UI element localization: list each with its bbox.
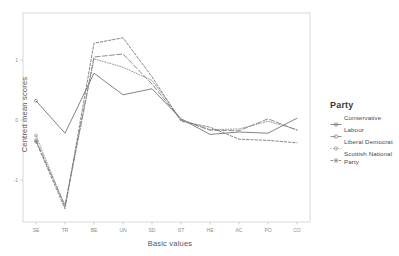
x-tick-label-be: BE xyxy=(84,227,104,233)
legend-item-liberal-democrat[interactable]: Liberal Democrat xyxy=(330,138,399,148)
x-tick-label-co: CO xyxy=(287,227,307,233)
legend-item-labour[interactable]: Labour xyxy=(330,126,399,136)
x-axis-title: Basic values xyxy=(0,239,340,248)
x-tick-label-st: ST xyxy=(171,227,191,233)
y-axis-title: Centred mean scores xyxy=(20,45,29,185)
legend-item-label: Labour xyxy=(344,126,364,134)
line-marker-icon xyxy=(330,115,342,124)
x-tick-label-tr: TR xyxy=(55,227,75,233)
x-tick-label-se: SE xyxy=(26,227,46,233)
legend-title: Party xyxy=(330,100,399,110)
plot-panel-border xyxy=(23,13,310,222)
legend-item-label: Liberal Democrat xyxy=(344,138,393,146)
legend-item-conservative[interactable]: Conservative xyxy=(330,114,399,124)
legend-item-label: Scottish National Party xyxy=(344,150,399,165)
legend: Party ConservativeLabourLiberal Democrat… xyxy=(330,100,399,168)
legend-item-label: Conservative xyxy=(344,114,381,122)
chart-container: Basic values Centred mean scores SETRBEU… xyxy=(0,0,399,256)
x-tick-label-un: UN xyxy=(113,227,133,233)
legend-item-scottish-national-party[interactable]: Scottish National Party xyxy=(330,150,399,165)
y-tick-label-neg1: -1 xyxy=(6,177,18,183)
x-tick-label-he: HE xyxy=(200,227,220,233)
line-marker-icon xyxy=(330,151,342,160)
line-marker-icon xyxy=(330,139,342,148)
x-tick-label-ac: AC xyxy=(229,227,249,233)
x-tick-label-sd: SD xyxy=(142,227,162,233)
y-tick-label-1: 1 xyxy=(6,57,18,63)
y-tick-label-0: 0 xyxy=(6,117,18,123)
x-tick-label-po: PO xyxy=(258,227,278,233)
line-marker-icon xyxy=(330,127,342,136)
legend-items: ConservativeLabourLiberal DemocratScotti… xyxy=(330,114,399,165)
